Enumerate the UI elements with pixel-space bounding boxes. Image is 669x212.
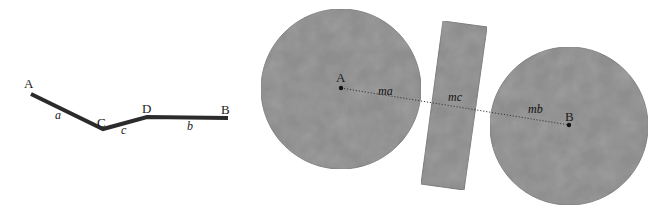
center-a-dot bbox=[339, 86, 343, 90]
point-label-d: D bbox=[142, 101, 151, 116]
mass-label-ma: ma bbox=[378, 84, 393, 98]
polyline-figure: A C D B a c b bbox=[24, 76, 230, 137]
point-label-b-upper: B bbox=[221, 102, 230, 117]
segment-label-a: a bbox=[55, 108, 61, 122]
mass-label-mc: mc bbox=[448, 90, 463, 104]
mass-label-mb: mb bbox=[528, 102, 543, 116]
segment-label-c: c bbox=[121, 123, 127, 137]
point-label-c: C bbox=[97, 115, 106, 130]
disk-label-a: A bbox=[336, 70, 346, 85]
connecting-rod-rectangle bbox=[421, 21, 487, 190]
disks-and-rod-figure: A B ma mc mb bbox=[261, 9, 648, 205]
physics-diagram: A C D B a c b A B ma mc mb bbox=[0, 0, 669, 212]
segment-label-b: b bbox=[187, 119, 193, 133]
point-label-a-upper: A bbox=[24, 76, 34, 91]
disk-label-b: B bbox=[565, 109, 574, 124]
